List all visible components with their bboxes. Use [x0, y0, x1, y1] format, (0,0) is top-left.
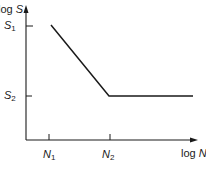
n2-sub: 2 — [110, 153, 114, 162]
x-tick-label-n1: N1 — [43, 149, 55, 162]
y-axis-arrow-icon — [24, 5, 29, 13]
x-axis-label-var: N — [199, 147, 206, 159]
sn-chart — [0, 0, 206, 169]
x-axis-arrow-icon — [190, 138, 198, 143]
s2-sub: 2 — [11, 94, 15, 103]
n2-var: N — [102, 148, 110, 160]
y-axis-label-var: S — [16, 3, 23, 15]
x-tick-label-n2: N2 — [102, 149, 114, 162]
x-axis-label: log N — [181, 148, 206, 159]
y-tick-label-s1: S1 — [4, 20, 16, 33]
x-axis-label-prefix: log — [181, 147, 199, 159]
s1-sub: 1 — [11, 24, 15, 33]
sn-curve-line — [51, 25, 193, 96]
y-axis-label: log S — [0, 4, 23, 15]
y-axis-label-prefix: log — [0, 3, 16, 15]
n1-var: N — [43, 148, 51, 160]
n1-sub: 1 — [51, 153, 55, 162]
y-tick-label-s2: S2 — [4, 90, 16, 103]
